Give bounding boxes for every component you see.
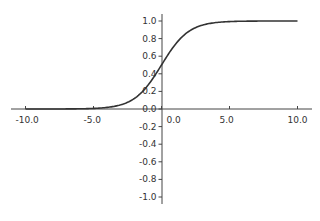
x-tick-label: 5.0	[220, 115, 235, 125]
y-tick-label: -1.0	[139, 192, 157, 202]
sigmoid-chart: -10.0-5.00.05.010.0 1.00.80.60.40.20.0-0…	[0, 0, 320, 221]
y-tick-label: -0.2	[139, 122, 157, 132]
y-tick-label: 0.6	[142, 51, 157, 61]
y-tick-label: 1.0	[142, 16, 157, 26]
x-tick-label: 10.0	[288, 115, 308, 125]
y-tick-label: -0.4	[139, 139, 157, 149]
y-tick-label: -0.8	[139, 174, 157, 184]
x-tick-label: -5.0	[84, 115, 102, 125]
y-tick-label: -0.6	[139, 157, 157, 167]
y-ticks: 1.00.80.60.40.20.0-0.2-0.4-0.6-0.8-1.0	[139, 16, 162, 202]
y-tick-label: 0.2	[142, 86, 156, 96]
y-tick-label: 0.8	[142, 34, 157, 44]
x-tick-label: 0.0	[167, 115, 182, 125]
x-tick-label: -10.0	[16, 115, 40, 125]
y-tick-label: 0.0	[142, 104, 157, 114]
